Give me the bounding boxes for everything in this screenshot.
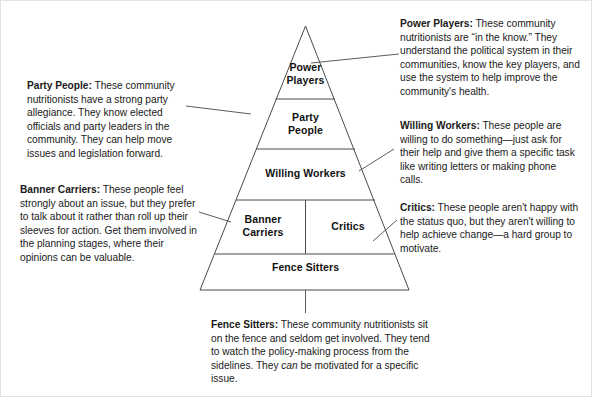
callout-body-banner-carriers: These people feel strongly about an issu…	[20, 184, 197, 263]
tier-label-willing-workers: Willing Workers	[245, 167, 366, 180]
callout-body-power-players: These community nutritionists are “in th…	[400, 18, 580, 97]
leader-line-party-people	[186, 106, 251, 114]
tier-label-banner-carriers: Banner Carriers	[223, 213, 303, 240]
callout-body-party-people: These community nutritionists have a str…	[27, 80, 175, 159]
callout-term-party-people: Party People:	[27, 80, 92, 91]
callout-fence-sitters: Fence Sitters: These community nutrition…	[211, 318, 439, 386]
callout-power-players: Power Players: These community nutrition…	[400, 17, 581, 98]
tier-label-party-people: Party People	[265, 111, 346, 138]
callout-term-willing-workers: Willing Workers:	[400, 120, 480, 131]
callout-willing-workers: Willing Workers: These people are willin…	[400, 119, 581, 187]
diagram-canvas: Power Players Party People Willing Worke…	[0, 0, 592, 397]
tier-label-power-players: Power Players	[265, 61, 346, 88]
callout-emphasis-fence-sitters: can	[281, 360, 297, 371]
callout-party-people: Party People: These community nutritioni…	[27, 79, 193, 160]
callout-term-power-players: Power Players:	[400, 18, 473, 29]
callout-banner-carriers: Banner Carriers: These people feel stron…	[20, 183, 200, 264]
callout-critics: Critics: These people aren't happy with …	[400, 201, 581, 255]
callout-term-fence-sitters: Fence Sitters:	[211, 319, 278, 330]
tier-label-fence-sitters: Fence Sitters	[245, 261, 366, 274]
callout-term-banner-carriers: Banner Carriers:	[20, 184, 100, 195]
tier-label-critics: Critics	[309, 220, 387, 233]
callout-term-critics: Critics:	[400, 202, 435, 213]
